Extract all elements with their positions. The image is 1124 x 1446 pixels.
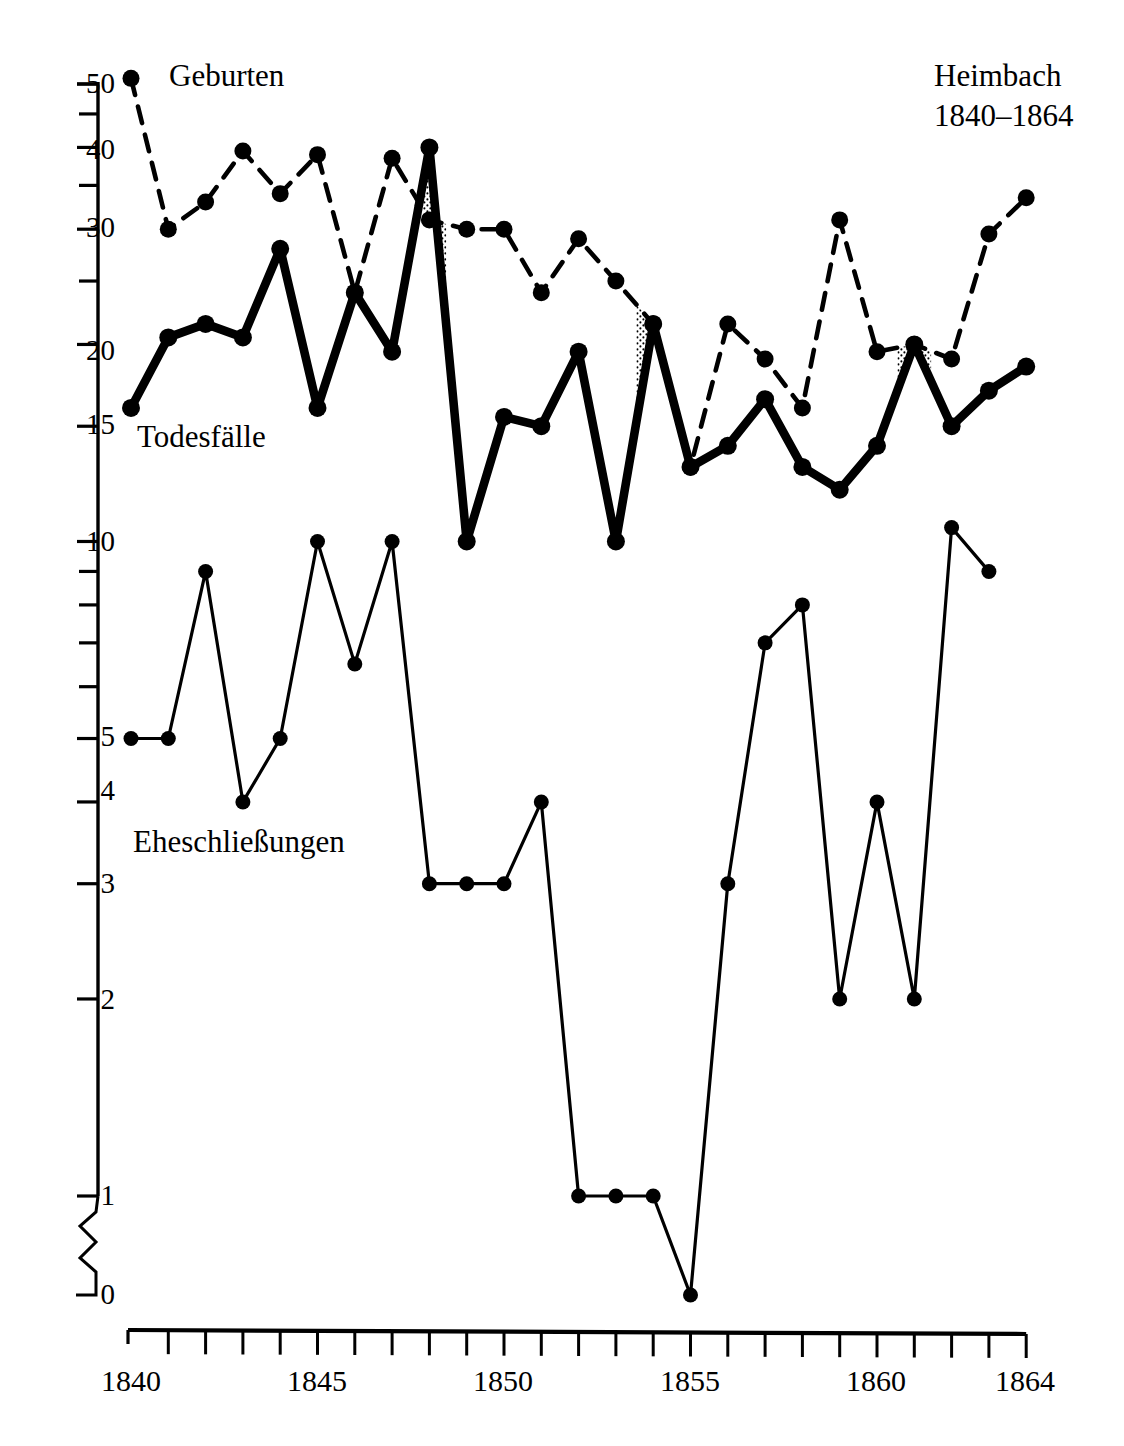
ytick-label-3: 3 xyxy=(45,869,115,898)
ytick-label-4: 4 xyxy=(45,776,115,805)
ytick-label-15: 15 xyxy=(45,410,115,439)
ytick-label-40: 40 xyxy=(45,135,115,164)
xtick-label-1855: 1855 xyxy=(630,1366,750,1395)
series-geburten xyxy=(123,70,1035,476)
excess-mortality-shading xyxy=(415,149,932,467)
chart-title-period: 1840–1864 xyxy=(934,96,1074,136)
x-axis xyxy=(128,1330,1026,1358)
series-todesfaelle xyxy=(122,138,1035,550)
xtick-label-1845: 1845 xyxy=(257,1366,377,1395)
ytick-label-20: 20 xyxy=(45,336,115,365)
chart-root: Heimbach 1840–1864 Geburten Todesfälle E… xyxy=(0,0,1124,1446)
xtick-label-1850: 1850 xyxy=(443,1366,563,1395)
ytick-label-50: 50 xyxy=(45,69,115,98)
ytick-label-2: 2 xyxy=(45,985,115,1014)
ytick-label-30: 30 xyxy=(45,213,115,242)
xtick-label-1840: 1840 xyxy=(71,1366,191,1395)
chart-title: Heimbach 1840–1864 xyxy=(934,56,1074,136)
ytick-label-10: 10 xyxy=(45,527,115,556)
xtick-label-1864: 1864 xyxy=(965,1366,1085,1395)
series-label-todesfaelle: Todesfälle xyxy=(137,419,266,455)
chart-title-place: Heimbach xyxy=(934,56,1074,96)
ytick-label-0: 0 xyxy=(45,1280,115,1309)
chart-plot-area xyxy=(0,0,1124,1446)
ytick-label-5: 5 xyxy=(45,722,115,751)
xtick-label-1860: 1860 xyxy=(816,1366,936,1395)
ytick-label-1: 1 xyxy=(45,1181,115,1210)
series-eheschliessungen xyxy=(124,520,997,1302)
series-label-eheschliessungen: Eheschließungen xyxy=(133,824,345,860)
series-label-geburten: Geburten xyxy=(169,58,284,94)
y-axis xyxy=(76,82,98,1295)
